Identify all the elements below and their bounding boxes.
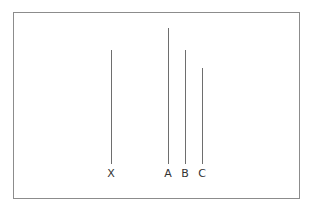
line-x: [111, 50, 112, 164]
diagram-frame: [13, 12, 300, 199]
label-c: C: [195, 168, 209, 180]
label-x: X: [104, 168, 118, 180]
line-a: [168, 28, 169, 164]
label-b: B: [178, 168, 192, 180]
line-b: [185, 50, 186, 164]
line-c: [202, 68, 203, 164]
label-a: A: [161, 168, 175, 180]
